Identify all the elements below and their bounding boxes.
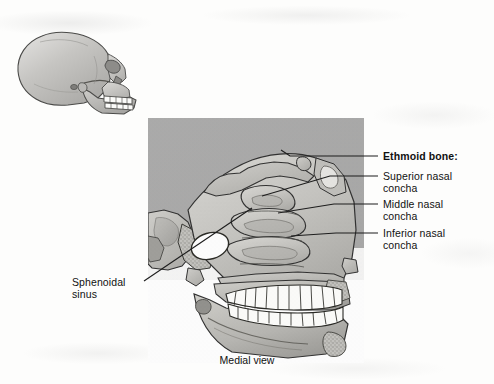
anatomy-figure: Ethmoid bone: Superior nasal concha Midd…	[0, 0, 494, 384]
label-superior-nasal-concha: Superior nasal concha	[383, 170, 452, 194]
label-ethmoid-bone: Ethmoid bone:	[383, 150, 458, 162]
inset-external-acoustic-meatus	[71, 84, 78, 89]
lateral-skull-orientation-inset	[12, 26, 148, 122]
label-inferior-nasal-concha: Inferior nasal concha	[383, 227, 445, 251]
label-middle-nasal-concha: Middle nasal concha	[383, 198, 443, 222]
plate-grain	[148, 118, 364, 363]
inset-cranium	[18, 32, 112, 105]
label-sphenoidal-sinus: Sphenoidal sinus	[72, 276, 126, 300]
sagittal-skull-plate	[148, 118, 364, 363]
inset-mandibular-condyle	[78, 83, 87, 93]
figure-caption: Medial view	[0, 354, 494, 366]
